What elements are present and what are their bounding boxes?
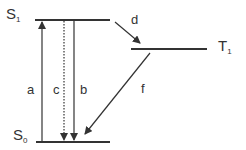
label-b: b — [80, 83, 87, 96]
label-c: c — [53, 83, 60, 96]
label-a: a — [27, 83, 34, 96]
diagram-canvas — [0, 0, 246, 150]
jablonski-diagram: S1 S0 T1 a c b d f — [0, 0, 246, 150]
label-t1: T1 — [218, 38, 232, 56]
label-d: d — [131, 13, 138, 26]
label-s0: S0 — [13, 127, 27, 145]
label-s1: S1 — [6, 6, 20, 24]
label-f: f — [141, 82, 145, 95]
